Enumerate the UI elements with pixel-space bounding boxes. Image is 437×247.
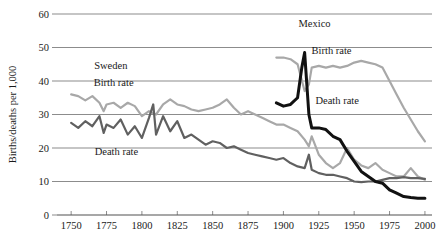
annotation-death-rate: Death rate — [95, 146, 139, 157]
y-tick-label: 0 — [44, 210, 49, 221]
y-tick-label: 20 — [39, 143, 50, 154]
annotation-birth-rate: Birth rate — [94, 77, 134, 88]
y-axis-title: Births/deaths per 1,000 — [7, 66, 18, 164]
births-deaths-chart: 0102030405060175017751800182518501875190… — [0, 0, 437, 247]
x-tick-label: 1950 — [344, 220, 365, 231]
y-tick-label: 50 — [39, 42, 50, 53]
series-sweden-death-rate — [71, 104, 425, 182]
x-tick-label: 1975 — [379, 220, 400, 231]
x-tick-label: 1750 — [61, 220, 82, 231]
y-tick-label: 30 — [39, 109, 50, 120]
x-tick-label: 1900 — [273, 220, 294, 231]
x-tick-label: 1925 — [308, 220, 329, 231]
x-tick-label: 1775 — [96, 220, 117, 231]
series-sweden-birth-rate — [71, 94, 425, 179]
x-tick-label: 1825 — [167, 220, 188, 231]
y-tick-label: 10 — [39, 176, 50, 187]
x-tick-label: 1800 — [131, 220, 152, 231]
x-tick-label: 1850 — [202, 220, 223, 231]
y-tick-label: 60 — [39, 9, 50, 20]
annotation-death-rate: Death rate — [315, 95, 359, 106]
y-tick-label: 40 — [39, 76, 50, 87]
chart-canvas: 0102030405060175017751800182518501875190… — [0, 0, 437, 247]
annotation-mexico: Mexico — [299, 18, 331, 29]
annotation-birth-rate: Birth rate — [312, 45, 352, 56]
annotation-sweden: Sweden — [94, 60, 128, 71]
x-tick-label: 2000 — [414, 220, 435, 231]
x-tick-label: 1875 — [238, 220, 259, 231]
